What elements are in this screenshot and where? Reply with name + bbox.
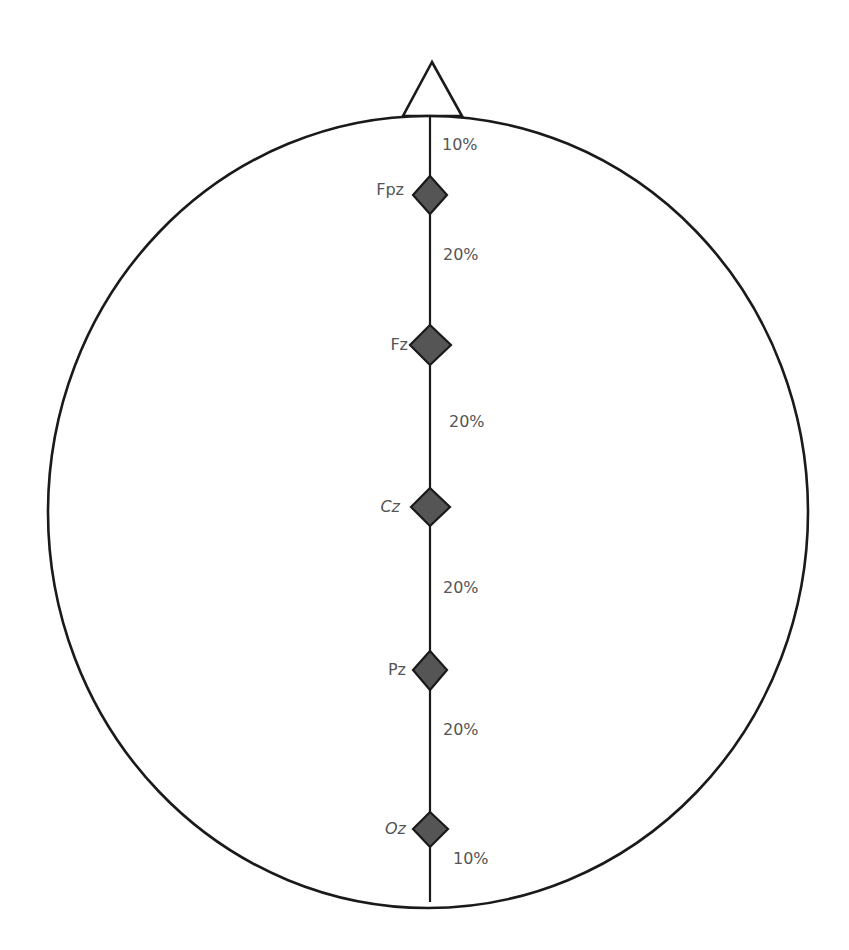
eeg-midline-diagram xyxy=(0,0,849,950)
electrode-label-fz: Fz xyxy=(390,337,408,353)
electrode-label-pz: Pz xyxy=(388,662,406,678)
electrode-label-fpz: Fpz xyxy=(376,182,404,198)
interval-label-pz-oz: 20% xyxy=(443,722,479,738)
electrode-label-cz: Cz xyxy=(380,499,400,515)
interval-label-oz-inion: 10% xyxy=(453,851,489,867)
interval-label-fpz-fz: 20% xyxy=(443,247,479,263)
nose-triangle xyxy=(403,62,462,116)
interval-label-fz-cz: 20% xyxy=(449,414,485,430)
interval-label-cz-pz: 20% xyxy=(443,580,479,596)
interval-label-nasion-fpz: 10% xyxy=(442,137,478,153)
electrode-label-oz: Oz xyxy=(385,821,406,837)
